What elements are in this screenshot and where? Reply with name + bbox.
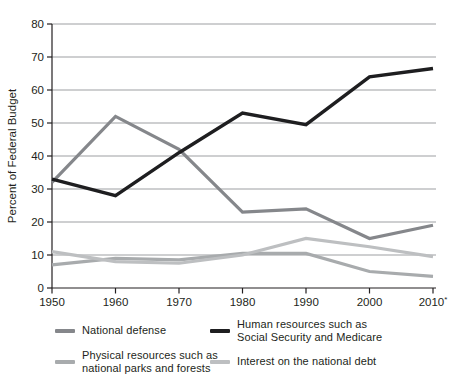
x-tick-label-1950: 1950 bbox=[39, 296, 65, 308]
y-tick-label-50: 50 bbox=[31, 117, 44, 129]
x-tick-label-1990: 1990 bbox=[293, 296, 319, 308]
x-tick-label-1980: 1980 bbox=[230, 296, 256, 308]
chart-plot-area: Percent of Federal Budget 01020304050607… bbox=[0, 0, 458, 314]
budget-line-chart-figure: Percent of Federal Budget 01020304050607… bbox=[0, 0, 458, 383]
y-tick-label-0: 0 bbox=[38, 282, 44, 294]
national-defense-line-swatch bbox=[55, 329, 75, 332]
y-tick-label-30: 30 bbox=[31, 183, 44, 195]
interest-debt-line-swatch bbox=[210, 360, 230, 363]
x-tick-label-1960: 1960 bbox=[103, 296, 129, 308]
y-axis-title: Percent of Federal Budget bbox=[6, 88, 18, 223]
y-tick-label-60: 60 bbox=[31, 84, 44, 96]
y-tick-label-70: 70 bbox=[31, 51, 44, 63]
y-tick-label-20: 20 bbox=[31, 216, 44, 228]
legend-item-physical-resources: Physical resources such as national park… bbox=[55, 348, 230, 376]
series-line-physical-resources bbox=[52, 253, 433, 276]
x-tick-label-1970: 1970 bbox=[166, 296, 192, 308]
legend-label-physical-resources: Physical resources such as national park… bbox=[82, 349, 230, 375]
series-line-national-defense bbox=[52, 116, 433, 238]
legend-label-national-defense: National defense bbox=[82, 324, 166, 337]
x-tick-label-2010: 2010* bbox=[419, 295, 448, 309]
x-tick-label-2000: 2000 bbox=[357, 296, 383, 308]
physical-resources-line-swatch bbox=[55, 360, 75, 363]
series-line-human-resources bbox=[52, 69, 433, 196]
human-resources-line-swatch bbox=[210, 329, 230, 332]
y-tick-label-80: 80 bbox=[31, 18, 44, 30]
y-tick-label-10: 10 bbox=[31, 249, 44, 261]
legend-item-interest-debt: Interest on the national debt bbox=[210, 348, 376, 376]
series-line-interest-debt bbox=[52, 239, 433, 264]
legend-item-human-resources: Human resources such as Social Security … bbox=[210, 317, 395, 345]
legend-label-human-resources: Human resources such as Social Security … bbox=[237, 318, 395, 344]
y-tick-label-40: 40 bbox=[31, 150, 44, 162]
legend-label-interest-debt: Interest on the national debt bbox=[237, 355, 376, 368]
legend-item-national-defense: National defense bbox=[55, 317, 166, 345]
